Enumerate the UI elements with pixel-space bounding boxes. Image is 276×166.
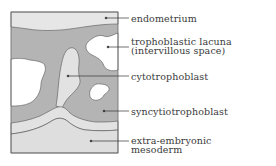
- label-cytotrophoblast-text: cytotrophoblast: [131, 71, 208, 82]
- label-syncytiotrophoblast: syncytiotrophoblast: [131, 107, 228, 116]
- label-extra-embryonic-mesoderm: extra-embryonic mesoderm: [131, 136, 212, 154]
- label-trophoblastic-lacuna: trophoblastic lacuna (intervillous space…: [131, 37, 232, 55]
- label-endometrium-text: endometrium: [131, 13, 197, 24]
- label-cytotrophoblast: cytotrophoblast: [131, 72, 208, 81]
- label-lacuna-line2: (intervillous space): [131, 46, 232, 55]
- label-mesoderm-line2: mesoderm: [131, 145, 212, 154]
- label-endometrium: endometrium: [131, 14, 197, 23]
- label-syncytiotrophoblast-text: syncytiotrophoblast: [131, 106, 228, 117]
